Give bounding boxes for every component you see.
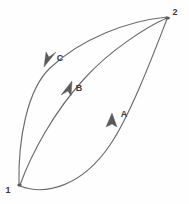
node-1-group[interactable]: 1 bbox=[5, 183, 21, 195]
path-c-group[interactable]: C bbox=[19, 17, 167, 184]
path-a-group[interactable]: A bbox=[20, 19, 167, 190]
path-a-arrowhead bbox=[106, 113, 117, 127]
path-c-curve[interactable] bbox=[19, 17, 167, 184]
node-2-dot[interactable] bbox=[165, 16, 170, 19]
node-1-label: 1 bbox=[5, 185, 10, 195]
node-1-dot[interactable] bbox=[17, 183, 21, 186]
path-b-label: B bbox=[76, 83, 83, 93]
path-diagram-canvas: A B C 1 2 bbox=[0, 0, 189, 204]
node-2-label: 2 bbox=[172, 7, 177, 17]
path-a-curve[interactable] bbox=[20, 19, 167, 190]
path-b-arrowhead bbox=[61, 81, 72, 96]
path-c-label: C bbox=[57, 53, 64, 63]
node-2-group[interactable]: 2 bbox=[165, 7, 177, 20]
diagram-svg: A B C 1 2 bbox=[0, 0, 189, 204]
path-b-curve[interactable] bbox=[20, 18, 167, 185]
path-b-group[interactable]: B bbox=[20, 18, 167, 185]
path-a-label: A bbox=[121, 109, 128, 119]
